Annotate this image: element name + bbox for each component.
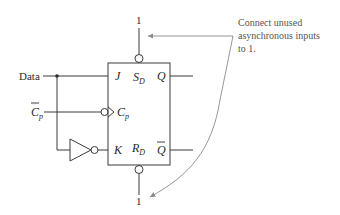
annotation-line-2: asynchronous inputs [238, 30, 320, 41]
pin-j-label: J [115, 69, 121, 83]
flip-flop-diagram: 1 1 J SD Q Cp K RD Q Data Cp Connect unu… [0, 0, 340, 215]
annotation-line-1: Connect unused [238, 17, 302, 28]
clock-inversion-bubble [101, 109, 108, 116]
pin-cp-label: Cp [117, 105, 129, 121]
annotation-arrow-bottom [150, 36, 233, 197]
pin-rd-label: RD [131, 141, 145, 157]
pin-q-label: Q [157, 69, 166, 83]
annotation-line-3: to 1. [238, 43, 256, 54]
inverter-gate-icon [70, 139, 91, 161]
pin-sd-label: SD [133, 70, 145, 86]
sd-inversion-bubble [135, 55, 143, 63]
tie-high-top-label: 1 [136, 14, 142, 26]
clock-triangle-icon [108, 107, 114, 117]
pin-qbar-label: Q [157, 143, 166, 157]
clock-input-label: Cp [31, 105, 43, 121]
rd-inversion-bubble [135, 166, 143, 174]
data-input-label: Data [19, 70, 40, 82]
pin-k-label: K [113, 143, 123, 157]
tie-high-bottom-label: 1 [136, 195, 142, 207]
